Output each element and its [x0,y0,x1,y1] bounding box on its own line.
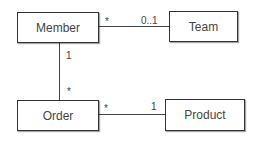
multiplicity-order-product-to: 1 [151,102,157,112]
class-order-label: Order [43,109,74,123]
class-order[interactable]: Order [17,100,99,131]
class-product[interactable]: Product [165,99,245,131]
multiplicity-member-order-from: 1 [66,51,72,61]
multiplicity-member-team-from: * [105,17,109,27]
class-member-label: Member [36,21,80,35]
class-product-label: Product [184,108,225,122]
class-team-label: Team [189,20,218,34]
multiplicity-order-product-from: * [104,104,108,114]
multiplicity-member-order-to: * [67,87,71,97]
class-team[interactable]: Team [169,11,238,42]
multiplicity-member-team-to: 0..1 [141,16,158,26]
class-member[interactable]: Member [17,12,99,43]
association-member-order [59,42,60,100]
association-order-product [98,114,165,115]
